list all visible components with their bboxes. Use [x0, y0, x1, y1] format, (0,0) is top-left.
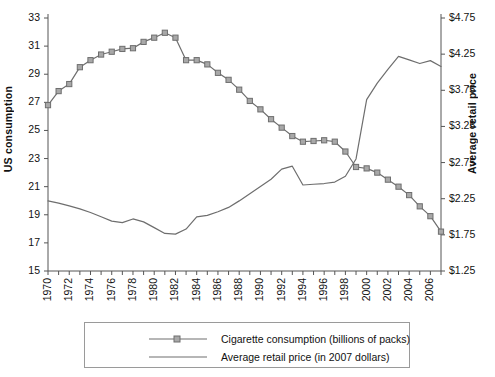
y-axis-left-tick-label: 23 — [14, 153, 40, 164]
x-axis-tick-label: 2004 — [403, 278, 414, 301]
x-axis-tick-label: 1994 — [297, 278, 308, 301]
y-axis-right-tick-label: $1.75 — [449, 229, 475, 240]
y-axis-left-tick-label: 15 — [14, 265, 40, 276]
series-line-price — [48, 56, 441, 234]
x-axis-tick-label: 1976 — [106, 278, 117, 301]
y-axis-right-tick-label: $3.75 — [449, 84, 475, 95]
legend-label-price: Average retail price (in 2007 dollars) — [221, 350, 389, 364]
x-axis-tick-label: 1984 — [191, 278, 202, 301]
x-axis-tick-label: 1978 — [127, 278, 138, 301]
x-axis-tick-label: 2002 — [382, 278, 393, 301]
chart-legend: Cigarette consumption (billions of packs… — [84, 322, 410, 368]
y-axis-left-tick-label: 25 — [14, 124, 40, 135]
plot-canvas — [0, 0, 495, 377]
y-axis-right-tick-label: $3.25 — [449, 120, 475, 131]
x-axis-tick-label: 1992 — [276, 278, 287, 301]
x-axis-tick-label: 1988 — [233, 278, 244, 301]
legend-marker-line — [147, 349, 209, 365]
y-axis-left-tick-label: 17 — [14, 237, 40, 248]
y-axis-right-tick-label: $4.75 — [449, 12, 475, 23]
y-axis-left-tick-label: 29 — [14, 68, 40, 79]
legend-marker-square-line — [147, 331, 209, 347]
y-axis-left-tick-label: 19 — [14, 209, 40, 220]
y-axis-left-tick-label: 31 — [14, 40, 40, 51]
legend-item-price: Average retail price (in 2007 dollars) — [85, 349, 409, 365]
series-markers-consumption — [45, 30, 443, 234]
x-axis-tick-label: 1972 — [63, 278, 74, 301]
x-axis-tick-label: 1998 — [339, 278, 350, 301]
x-axis-tick-label: 1986 — [212, 278, 223, 301]
x-axis-tick-label: 2000 — [361, 278, 372, 301]
y-axis-left-tick-label: 27 — [14, 96, 40, 107]
x-axis-tick-label: 1982 — [169, 278, 180, 301]
x-axis-tick-label: 1996 — [318, 278, 329, 301]
chart-figure: US consumption Average retail price Ciga… — [0, 0, 495, 377]
x-axis-tick-label: 1980 — [148, 278, 159, 301]
x-axis-tick-label: 1970 — [42, 278, 53, 301]
y-axis-right-tick-label: $2.75 — [449, 157, 475, 168]
y-axis-right-tick-label: $1.25 — [449, 265, 475, 276]
y-axis-right-tick-label: $4.25 — [449, 48, 475, 59]
x-axis-tick-label: 1990 — [254, 278, 265, 301]
series-line-consumption — [48, 33, 441, 232]
x-axis-tick-label: 1974 — [84, 278, 95, 301]
y-axis-left-tick-label: 33 — [14, 12, 40, 23]
legend-item-consumption: Cigarette consumption (billions of packs… — [85, 331, 409, 347]
legend-label-consumption: Cigarette consumption (billions of packs… — [221, 332, 410, 346]
y-axis-left-tick-label: 21 — [14, 181, 40, 192]
x-axis-tick-label: 2006 — [424, 278, 435, 301]
y-axis-right-tick-label: $2.25 — [449, 193, 475, 204]
